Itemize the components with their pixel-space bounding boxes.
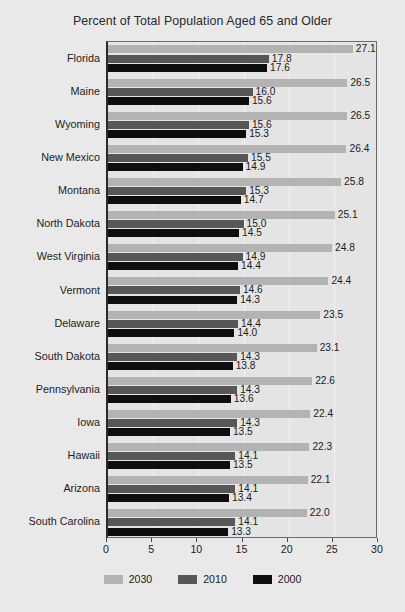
- bar-value-label: 24.4: [331, 276, 351, 286]
- bar-2010: [108, 154, 248, 162]
- x-tick-20: [287, 538, 288, 542]
- category-label-delaware: Delaware: [0, 317, 100, 329]
- bar-value-label: 13.6: [234, 394, 254, 404]
- bar-2000: [108, 329, 234, 337]
- bar-value-label: 14.4: [241, 261, 261, 271]
- legend-item-2030[interactable]: 2030: [104, 573, 153, 585]
- bar-row: 14.5: [108, 229, 376, 237]
- bar-2030: [108, 344, 317, 352]
- x-tick-label-30: 30: [371, 543, 383, 555]
- bar-value-label: 25.1: [338, 210, 358, 220]
- x-tick-25: [332, 538, 333, 542]
- bar-2010: [108, 121, 249, 129]
- bar-value-label: 13.5: [233, 460, 253, 470]
- bar-value-label: 26.4: [349, 144, 369, 154]
- bar-2010: [108, 220, 244, 228]
- bar-value-label: 14.3: [240, 294, 260, 304]
- bar-value-label: 15.3: [249, 129, 269, 139]
- legend-label-2030: 2030: [129, 573, 153, 585]
- bar-row: 26.4: [108, 145, 376, 153]
- bar-2030: [108, 178, 341, 186]
- x-tick-label-15: 15: [236, 543, 248, 555]
- bar-group: 22.614.313.6: [108, 373, 376, 406]
- bar-row: 17.6: [108, 64, 376, 72]
- bar-row: 16.0: [108, 88, 376, 96]
- bar-value-label: 14.7: [244, 195, 264, 205]
- bar-value-label: 22.1: [311, 475, 331, 485]
- x-axis-labels: 051015202530: [106, 543, 377, 559]
- bar-2010: [108, 518, 235, 526]
- bar-2000: [108, 262, 238, 270]
- bar-value-label: 13.5: [233, 427, 253, 437]
- gridline-30: [379, 42, 380, 537]
- bar-2000: [108, 296, 237, 304]
- bar-2000: [108, 64, 267, 72]
- bar-value-label: 26.5: [350, 77, 370, 87]
- plot-area: 27.117.817.626.516.015.626.515.615.326.4…: [106, 41, 377, 538]
- bar-2030: [108, 112, 347, 120]
- bar-row: 13.6: [108, 395, 376, 403]
- bar-2010: [108, 386, 237, 394]
- bar-value-label: 14.5: [242, 228, 262, 238]
- bar-2000: [108, 528, 228, 536]
- bar-2000: [108, 461, 230, 469]
- bar-2030: [108, 211, 335, 219]
- bar-row: 15.5: [108, 154, 376, 162]
- category-label-south-dakota: South Dakota: [0, 350, 100, 362]
- bar-group: 24.414.614.3: [108, 274, 376, 307]
- legend-item-2010[interactable]: 2010: [178, 573, 227, 585]
- legend-item-2000[interactable]: 2000: [253, 573, 302, 585]
- legend-label-2010: 2010: [203, 573, 227, 585]
- bar-row: 14.4: [108, 262, 376, 270]
- category-label-vermont: Vermont: [0, 284, 100, 296]
- bar-2000: [108, 196, 241, 204]
- bar-row: 15.6: [108, 121, 376, 129]
- bar-2010: [108, 187, 246, 195]
- bar-2010: [108, 88, 253, 96]
- legend-label-2000: 2000: [278, 573, 302, 585]
- bar-2030: [108, 509, 307, 517]
- bar-2000: [108, 163, 243, 171]
- bar-group: 22.414.313.5: [108, 406, 376, 439]
- bar-2010: [108, 320, 238, 328]
- legend-swatch-2010: [178, 575, 197, 584]
- x-tick-label-10: 10: [190, 543, 202, 555]
- bar-value-label: 25.8: [344, 177, 364, 187]
- category-label-arizona: Arizona: [0, 482, 100, 494]
- x-tick-label-5: 5: [148, 543, 154, 555]
- category-label-hawaii: Hawaii: [0, 449, 100, 461]
- bar-row: 14.0: [108, 329, 376, 337]
- bar-row: 17.8: [108, 55, 376, 63]
- bar-value-label: 13.4: [232, 493, 252, 503]
- category-label-maine: Maine: [0, 85, 100, 97]
- bar-2000: [108, 428, 230, 436]
- bar-group: 23.514.414.0: [108, 307, 376, 340]
- bar-value-label: 22.4: [313, 409, 333, 419]
- bar-2010: [108, 253, 243, 261]
- chart-legend: 203020102000: [0, 573, 405, 585]
- category-label-pennsylvania: Pennsylvania: [0, 383, 100, 395]
- x-tick-label-20: 20: [281, 543, 293, 555]
- bar-2010: [108, 55, 269, 63]
- category-label-north-dakota: North Dakota: [0, 217, 100, 229]
- bar-group: 22.014.113.3: [108, 506, 376, 539]
- category-label-west-virginia: West Virginia: [0, 250, 100, 262]
- bar-value-label: 14.9: [246, 162, 266, 172]
- bar-group: 26.515.615.3: [108, 108, 376, 141]
- bar-row: 27.1: [108, 45, 376, 53]
- bar-value-label: 14.0: [237, 328, 257, 338]
- category-label-new-mexico: New Mexico: [0, 151, 100, 163]
- bar-2010: [108, 286, 240, 294]
- bar-group: 23.114.313.8: [108, 340, 376, 373]
- bar-group: 26.415.514.9: [108, 141, 376, 174]
- bar-value-label: 22.0: [310, 508, 330, 518]
- bar-row: 24.8: [108, 244, 376, 252]
- bar-row: 13.3: [108, 528, 376, 536]
- bar-value-label: 23.1: [320, 343, 340, 353]
- bar-2010: [108, 353, 237, 361]
- chart-figure: Percent of Total Population Aged 65 and …: [0, 0, 405, 612]
- legend-swatch-2030: [104, 575, 123, 584]
- legend-swatch-2000: [253, 575, 272, 584]
- bar-row: 13.5: [108, 428, 376, 436]
- bar-value-label: 27.1: [356, 44, 376, 54]
